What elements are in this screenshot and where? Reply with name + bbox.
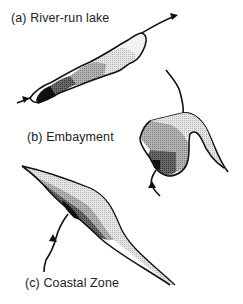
embayment bbox=[140, 70, 228, 196]
river-run-lake bbox=[17, 13, 178, 104]
panel-b-label: (b) Embayment bbox=[27, 130, 114, 144]
coastline-upper bbox=[150, 70, 183, 121]
outflow-arrow-icon bbox=[170, 13, 178, 20]
panel-c-label: (c) Coastal Zone bbox=[25, 276, 119, 290]
water-body-diagram bbox=[0, 0, 243, 304]
coastal-inflow-line bbox=[44, 214, 68, 272]
outflow-river-line bbox=[142, 16, 175, 33]
panel-a-label: (a) River-run lake bbox=[11, 11, 109, 25]
embayment-inflow-arrow-icon bbox=[148, 181, 156, 188]
